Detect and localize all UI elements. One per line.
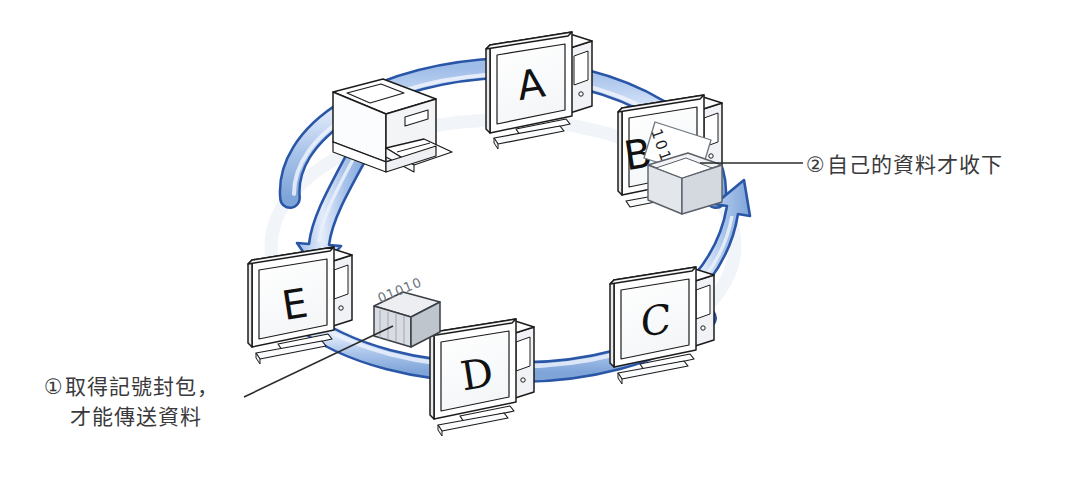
inbox-tray-b xyxy=(648,153,722,214)
callout-2-marker: ② xyxy=(806,153,827,177)
callout-2-line1: 自己的資料才收下 xyxy=(827,153,1003,177)
node-d: D xyxy=(430,319,534,436)
callout-1-line1: 取得記號封包， xyxy=(65,375,219,399)
token-packet-icon: 01010 xyxy=(374,275,440,347)
node-b: B 101000 xyxy=(618,95,722,214)
callout-1-line2: 才能傳送資料 xyxy=(44,402,219,432)
callout-1: ①取得記號封包， 才能傳送資料 xyxy=(44,372,219,432)
laser-printer-icon xyxy=(333,79,452,172)
callout-2: ②自己的資料才收下 xyxy=(806,150,1003,180)
callout-1-marker: ① xyxy=(44,375,65,399)
diagram-canvas: A B xyxy=(0,0,1091,478)
